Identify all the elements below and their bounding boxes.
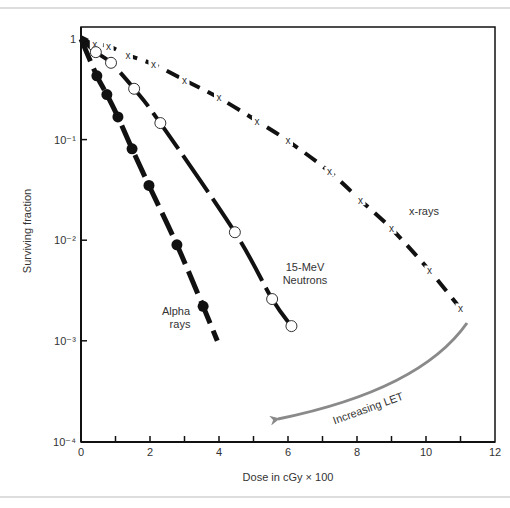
x-marker: x: [458, 303, 463, 314]
open-circle-marker: [106, 57, 117, 68]
filled-circle-marker: [112, 111, 123, 122]
neutron-label-line1: 15-MeV: [286, 261, 325, 273]
open-circle-marker: [267, 294, 278, 305]
x-tick-label: 10: [420, 446, 432, 458]
x-marker: x: [217, 92, 222, 103]
filled-circle-marker: [101, 89, 112, 100]
x-axis-tick-labels: 024681012: [78, 446, 501, 458]
y-tick-label: 1: [70, 33, 76, 45]
y-tick-label: 10⁻⁴: [53, 436, 76, 448]
increasing-let-label: Increasing LET: [331, 390, 405, 427]
filled-circle-marker: [91, 70, 102, 81]
y-tick-label: 10⁻¹: [54, 134, 76, 146]
survival-curve-chart: 024681012 110⁻¹10⁻²10⁻³10⁻⁴ xxxxxxxxxxxx…: [0, 0, 510, 508]
open-circle-marker: [286, 321, 297, 332]
filled-circle-marker: [127, 143, 138, 154]
series-markers: xxxxxxxxxxxxx: [81, 35, 466, 332]
open-circle-marker: [129, 83, 140, 94]
x-tick-label: 8: [354, 446, 360, 458]
neutron-label-line2: Neutrons: [283, 274, 328, 286]
x-tick-label: 12: [489, 446, 501, 458]
x-marker: x: [286, 135, 291, 146]
filled-circle-marker: [143, 180, 154, 191]
y-tick-label: 10⁻³: [54, 335, 76, 347]
xray-label: x-rays: [409, 205, 439, 217]
alpha-label-line1: Alpha: [162, 305, 191, 317]
x-marker: x: [254, 116, 259, 127]
x-tick-label: 6: [285, 446, 291, 458]
series-line: [81, 39, 461, 308]
x-axis-title: Dose in cGy × 100: [243, 471, 334, 483]
open-circle-marker: [90, 47, 101, 58]
x-marker: x: [358, 195, 363, 206]
y-axis-tick-labels: 110⁻¹10⁻²10⁻³10⁻⁴: [53, 33, 76, 448]
x-marker: x: [151, 59, 156, 70]
x-marker: x: [125, 50, 130, 61]
x-marker: x: [427, 265, 432, 276]
filled-circle-marker: [198, 301, 209, 312]
x-marker: x: [106, 41, 111, 52]
alpha-label-line2: rays: [170, 318, 191, 330]
y-axis-title: Surviving fraction: [21, 189, 33, 273]
x-marker: x: [389, 223, 394, 234]
open-circle-marker: [229, 227, 240, 238]
filled-circle-marker: [171, 239, 182, 250]
x-tick-label: 4: [216, 446, 222, 458]
x-marker: x: [327, 166, 332, 177]
x-tick-label: 0: [78, 446, 84, 458]
y-tick-label: 10⁻²: [54, 234, 76, 246]
open-circle-marker: [155, 118, 166, 129]
plot-frame: [81, 27, 495, 442]
x-marker: x: [182, 75, 187, 86]
x-tick-label: 2: [147, 446, 153, 458]
